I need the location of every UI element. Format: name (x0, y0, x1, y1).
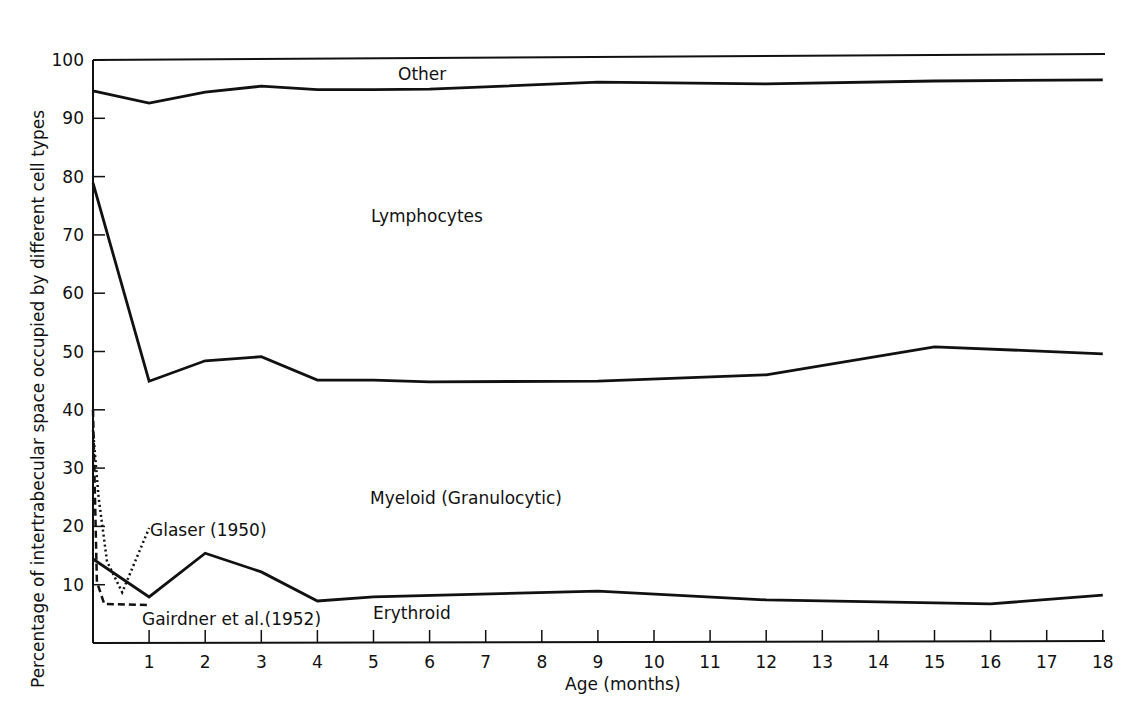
x-tick-label: 13 (811, 652, 833, 672)
y-tick-label: 60 (62, 283, 84, 303)
y-tick-label: 100 (52, 50, 84, 70)
x-tick-label: 18 (1092, 652, 1114, 672)
y-tick-label: 10 (62, 575, 84, 595)
y-tick-label: 50 (62, 342, 84, 362)
series-line-glaser-1950 (93, 430, 149, 592)
x-tick-label: 2 (200, 652, 211, 672)
y-tick-label: 40 (62, 400, 84, 420)
x-axis (93, 641, 1105, 643)
region-label-myeloid: Myeloid (Granulocytic) (370, 488, 562, 508)
x-tick-label: 7 (480, 652, 491, 672)
series-line-other-lymphocytes-boundary (93, 80, 1103, 103)
y-tick-label: 90 (62, 108, 84, 128)
x-tick-label: 5 (368, 652, 379, 672)
x-tick-label: 9 (592, 652, 603, 672)
region-label-lymphocytes: Lymphocytes (371, 206, 483, 226)
series-line-lymphocytes-myeloid-boundary (93, 183, 1103, 382)
x-tick-label: 4 (312, 652, 323, 672)
cell-type-chart: 1234567891011121314151617181020304050607… (0, 0, 1136, 718)
x-tick-label: 8 (536, 652, 547, 672)
x-tick-label: 3 (256, 652, 267, 672)
y-tick-label: 20 (62, 516, 84, 536)
region-label-erythroid: Erythroid (373, 603, 451, 623)
x-axis-title: Age (months) (565, 674, 681, 694)
x-tick-label: 1 (144, 652, 155, 672)
x-tick-label: 14 (868, 652, 890, 672)
annotation-glaser: Glaser (1950) (150, 520, 267, 540)
series-line-myeloid-erythroid-boundary (93, 553, 1103, 604)
annotation-gairdner: Gairdner et al.(1952) (142, 609, 321, 629)
x-tick-label: 16 (980, 652, 1002, 672)
x-tick-label: 12 (755, 652, 777, 672)
y-tick-label: 80 (62, 167, 84, 187)
x-tick-label: 10 (643, 652, 665, 672)
x-tick-label: 6 (424, 652, 435, 672)
x-tick-label: 15 (924, 652, 946, 672)
y-axis-title: Percentage of intertrabecular space occu… (28, 110, 48, 688)
series-line-gairdner-et-al-1952 (93, 410, 149, 605)
x-tick-label: 17 (1036, 652, 1058, 672)
top-frame-100-line (93, 54, 1105, 60)
y-tick-label: 70 (62, 225, 84, 245)
x-tick-label: 11 (699, 652, 721, 672)
y-tick-label: 30 (62, 458, 84, 478)
region-label-other: Other (398, 64, 446, 84)
